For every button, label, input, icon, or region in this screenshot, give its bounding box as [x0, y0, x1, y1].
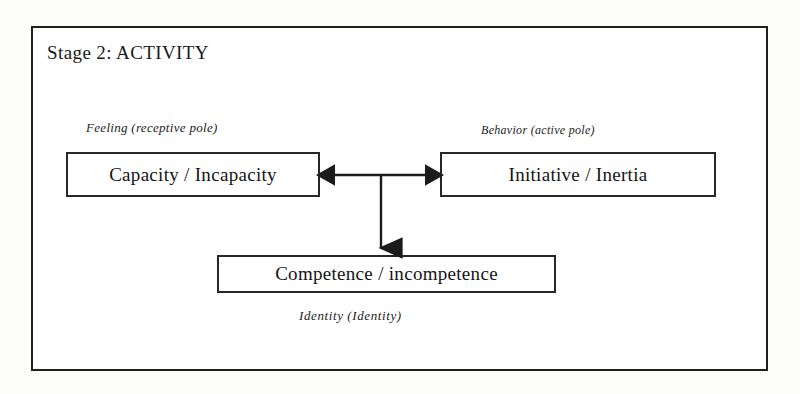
box-behavior: Initiative / Inertia: [440, 152, 716, 197]
caption-right-pole: Behavior (active pole): [481, 123, 595, 138]
box-identity-label: Competence / incompetence: [275, 263, 498, 285]
caption-left-pole: Feeling (receptive pole): [86, 120, 218, 136]
box-feeling-label: Capacity / Incapacity: [109, 164, 277, 186]
box-feeling: Capacity / Incapacity: [66, 152, 320, 197]
box-identity: Competence / incompetence: [217, 255, 556, 293]
diagram-canvas: Stage 2: ACTIVITY Feeling (receptive pol…: [0, 0, 800, 394]
caption-identity: Identity (Identity): [299, 308, 402, 324]
page-title: Stage 2: ACTIVITY: [47, 42, 209, 64]
box-behavior-label: Initiative / Inertia: [509, 164, 648, 186]
